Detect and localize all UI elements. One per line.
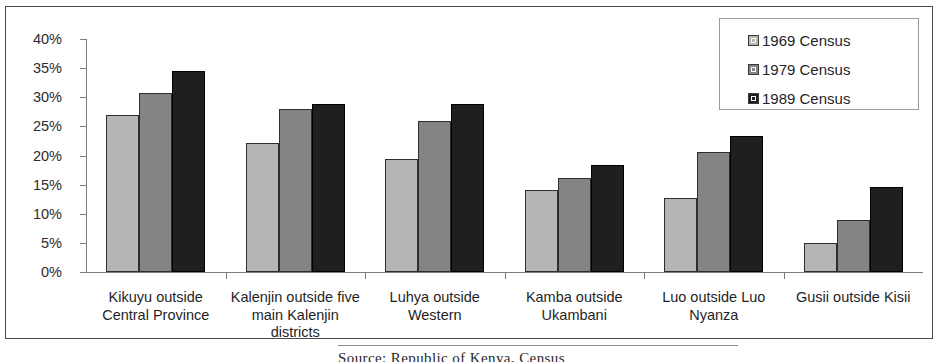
y-axis-tick-label: 25% [33, 119, 62, 134]
x-axis-group-divider [365, 272, 366, 279]
bar [697, 152, 730, 272]
y-axis-tick-label: 5% [41, 236, 62, 251]
x-axis-category-label: Kikuyu outsideCentral Province [86, 289, 226, 324]
y-axis-tick-label: 15% [33, 177, 62, 192]
bar [591, 165, 624, 272]
figure-caption: Source: Republic of Kenya, Census [338, 350, 808, 362]
x-axis-category-label-line: Kalenjin outside five [226, 289, 366, 307]
bar [525, 190, 558, 272]
legend-label: 1989 Census [762, 91, 850, 106]
bar-group [385, 39, 484, 272]
x-axis-category-label: Gusii outside Kisii [784, 289, 924, 307]
bar [730, 136, 763, 272]
bar [451, 104, 484, 272]
x-axis-category-label: Luhya outsideWestern [365, 289, 505, 324]
y-axis-tick-label: 0% [41, 265, 62, 280]
figure: 0%5%10%15%20%25%30%35%40% 1969 Census197… [0, 0, 942, 362]
bar [279, 109, 312, 272]
bar [172, 71, 205, 272]
x-axis-group-divider [644, 272, 645, 279]
legend-label: 1969 Census [762, 33, 850, 48]
bar-group [525, 39, 624, 272]
bar [804, 243, 837, 272]
bar [385, 159, 418, 272]
bar [664, 198, 697, 272]
chart-frame: 0%5%10%15%20%25%30%35%40% 1969 Census197… [5, 6, 933, 339]
x-axis-category-label-line: Nyanza [644, 307, 784, 325]
x-axis-category-label-line: Western [365, 307, 505, 325]
bar [139, 93, 172, 272]
y-axis-tick-label: 35% [33, 61, 62, 76]
bar [312, 104, 345, 272]
legend-label: 1979 Census [762, 62, 850, 77]
y-axis-tick-label: 20% [33, 148, 62, 163]
y-axis-tick-label: 30% [33, 90, 62, 105]
x-axis-category-label: Kamba outsideUkambani [505, 289, 645, 324]
bar [558, 178, 591, 272]
bar [870, 187, 903, 272]
legend-swatch-icon [748, 93, 759, 104]
x-axis-category-label-line: Gusii outside Kisii [784, 289, 924, 307]
bar [418, 121, 451, 272]
x-axis-category-label-line: Central Province [86, 307, 226, 325]
x-axis-group-divider [784, 272, 785, 279]
legend-item: 1989 Census [748, 91, 850, 106]
legend-item: 1969 Census [748, 33, 850, 48]
legend: 1969 Census1979 Census1989 Census [719, 18, 919, 110]
bar-group [246, 39, 345, 272]
x-axis-category-label-line: districts [226, 324, 366, 342]
caption-divider [338, 345, 738, 346]
y-axis-tick-label: 40% [33, 32, 62, 47]
bar [106, 115, 139, 272]
bar-group [106, 39, 205, 272]
y-axis-tick-label: 10% [33, 207, 62, 222]
x-axis-category-label-line: Luhya outside [365, 289, 505, 307]
x-axis-category-label-line: Luo outside Luo [644, 289, 784, 307]
x-axis-group-divider [505, 272, 506, 279]
x-axis-category-label: Luo outside LuoNyanza [644, 289, 784, 324]
bar [837, 220, 870, 272]
legend-swatch-icon [748, 64, 759, 75]
x-axis-category-label: Kalenjin outside fivemain Kalenjindistri… [226, 289, 366, 342]
bar [246, 143, 279, 272]
x-axis-category-label-line: Kikuyu outside [86, 289, 226, 307]
legend-swatch-icon [748, 35, 759, 46]
x-axis-category-label-line: Kamba outside [505, 289, 645, 307]
y-axis: 0%5%10%15%20%25%30%35%40% [6, 7, 68, 340]
x-axis-category-label-line: main Kalenjin [226, 307, 366, 325]
x-axis-category-label-line: Ukambani [505, 307, 645, 325]
x-axis-group-divider [226, 272, 227, 279]
legend-item: 1979 Census [748, 62, 850, 77]
